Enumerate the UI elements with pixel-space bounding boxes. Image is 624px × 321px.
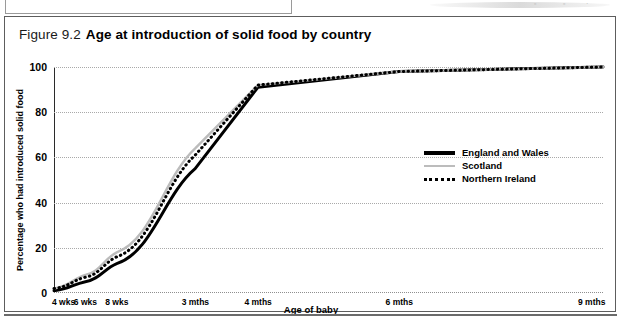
y-axis-label: Percentage who had introduced solid food [13,67,27,293]
y-tick-20: 20 [35,242,47,254]
y-tick-100: 100 [29,61,47,73]
figure-title: Age at introduction of solid food by cou… [86,27,372,42]
scan-artifact-strip: ▫ ▫ · [0,0,624,16]
scan-glyph-b: ▫ [563,0,565,7]
figure-panel: Figure 9.2Age at introduction of solid f… [4,16,616,312]
y-tick-40: 40 [35,197,47,209]
legend-item-northern-ireland[interactable]: Northern Ireland [424,172,549,185]
page-bottom-rule [4,314,617,316]
legend-label: Northern Ireland [462,173,536,184]
legend-swatch-icon [424,174,455,184]
legend-item-england-and-wales[interactable]: England and Wales [424,146,549,159]
legend-swatch-icon [424,161,455,171]
page-title: Figure 9.2Age at introduction of solid f… [19,27,371,42]
scan-glyph-c: · [586,0,588,7]
y-axis-label-text: Percentage who had introduced solid food [15,89,25,271]
y-tick-80: 80 [35,106,47,118]
chart-legend: England and WalesScotlandNorthern Irelan… [424,146,549,185]
legend-label: Scotland [462,160,502,171]
legend-swatch-icon [424,148,455,158]
y-tick-60: 60 [35,151,47,163]
scan-glyph-a: ▫ [534,0,536,7]
legend-item-scotland[interactable]: Scotland [424,159,549,172]
legend-label: England and Wales [462,147,549,158]
figure-number: Figure 9.2 [19,27,81,42]
document-fragment-box [5,0,292,14]
scan-smudge [430,2,610,8]
y-tick-0: 0 [41,287,47,299]
